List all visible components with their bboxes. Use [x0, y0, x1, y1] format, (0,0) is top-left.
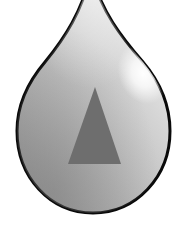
image-canvas: Water Droplet With Triangle Symbol — [0, 0, 181, 234]
droplet-group — [0, 0, 181, 234]
droplet-illustration: Water Droplet With Triangle Symbol — [0, 0, 181, 234]
